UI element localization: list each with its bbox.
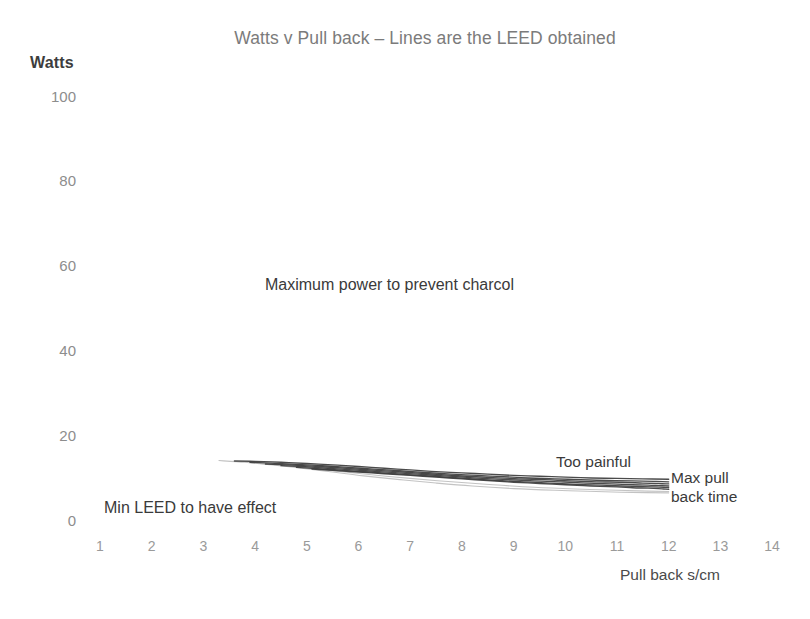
annotation-max-pull-line2: back time [671,487,737,506]
chart-canvas: Watts v Pull back – Lines are the LEED o… [0,0,810,619]
annotation-min-leed: Min LEED to have effect [104,498,276,518]
annotation-max-pull-line1: Max pull [671,468,737,487]
annotation-too-painful: Too painful [556,452,631,471]
annotation-maximum-power: Maximum power to prevent charcol [265,275,514,295]
plot-lines [0,0,810,619]
annotation-max-pull-back-time: Max pull back time [671,468,737,507]
